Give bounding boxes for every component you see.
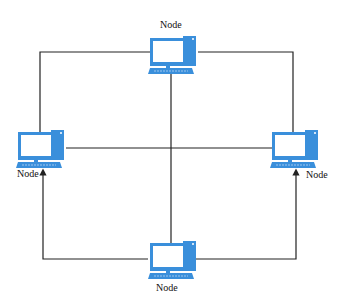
node-top-label: Node [160,19,182,30]
desktop-computer-icon [16,129,68,169]
node-left-label: Node [17,168,39,179]
link-top-right [198,52,293,136]
desktop-computer-icon [270,129,322,169]
link-bottom-left [43,172,148,259]
link-top-left [40,52,150,138]
node-right-label: Node [306,169,328,180]
node-bottom-label: Node [156,282,178,293]
link-bottom-right [196,172,296,259]
node-right[interactable] [270,129,322,169]
desktop-computer-icon [148,35,200,75]
node-left[interactable] [16,129,68,169]
node-top[interactable] [148,35,200,75]
node-bottom[interactable] [148,240,200,280]
desktop-computer-icon [148,240,200,280]
